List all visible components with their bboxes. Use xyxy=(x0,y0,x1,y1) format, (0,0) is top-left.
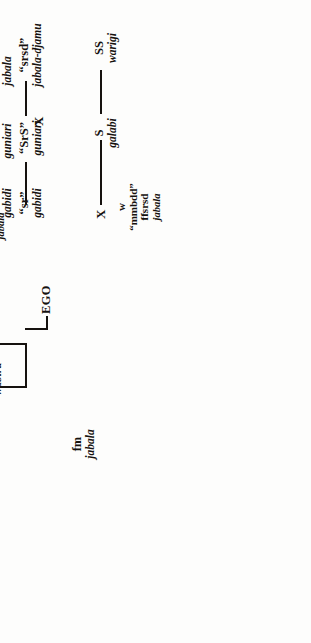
node-term: gabidi xyxy=(1,180,13,226)
rotated-figure-canvas: The jabala relationships fm jabala xyxy=(0,0,145,498)
node-term: jabala-djamu xyxy=(31,17,43,93)
kinship-diagram: The jabala relationships fm jabala xyxy=(0,0,145,498)
figure-page: The jabala relationships fm jabala xyxy=(0,0,311,643)
node-term: wabira xyxy=(0,356,3,402)
node-sr-gabidi-q[interactable]: “sr” gabidi xyxy=(18,180,43,226)
node-code: S xyxy=(93,111,106,155)
link-x-s-lower xyxy=(100,70,102,114)
node-code: fm xyxy=(71,416,84,472)
node-code: “sr” xyxy=(18,180,31,226)
node-term: galabi xyxy=(106,111,118,155)
node-term: jabala xyxy=(151,170,162,244)
node-sr-gabidi[interactable]: sr gabidi xyxy=(0,180,13,226)
node-term: jabala xyxy=(1,48,13,94)
node-code-secondary: ffsrsd xyxy=(139,170,151,244)
node-srs-guniari-q[interactable]: “SrS” guniari xyxy=(18,111,43,165)
node-code: w xyxy=(116,170,128,244)
ego-stub-vertical xyxy=(25,328,47,330)
sibling-bar-ego-level xyxy=(25,343,27,388)
node-x-ego-spouse[interactable]: X xyxy=(94,210,107,219)
node-term: gabidi xyxy=(31,180,43,226)
node-ss-warigi[interactable]: SS warigi xyxy=(93,24,118,72)
node-srsd-jabala-djamu[interactable]: “srsd” jabala-djamu xyxy=(18,17,43,93)
node-code: “SrS” xyxy=(18,111,31,165)
node-code: SS xyxy=(93,24,106,72)
node-fm-jabala[interactable]: fm jabala xyxy=(71,416,96,472)
node-srsd-jabala[interactable]: srsd jabala xyxy=(0,48,13,94)
node-term: guniari xyxy=(1,117,13,165)
node-ego[interactable]: EGO xyxy=(40,285,53,314)
node-srs-guniari[interactable]: SrS guniari xyxy=(0,117,13,165)
node-term: jabala xyxy=(84,416,96,472)
node-code: “srsd” xyxy=(18,17,31,93)
sibling-spine-main xyxy=(0,343,26,345)
node-f-wabira[interactable]: F wabira xyxy=(0,356,3,402)
node-term: guniari xyxy=(31,111,43,165)
node-w-mmbdd-ffsrsd-jabala[interactable]: w “mmbdd” ffsrsd jabala xyxy=(116,170,162,244)
node-s-galabi[interactable]: S galabi xyxy=(93,111,118,155)
sibling-spine-ego xyxy=(0,386,26,388)
ego-stub-horizontal xyxy=(46,316,48,330)
node-term: warigi xyxy=(106,24,118,72)
